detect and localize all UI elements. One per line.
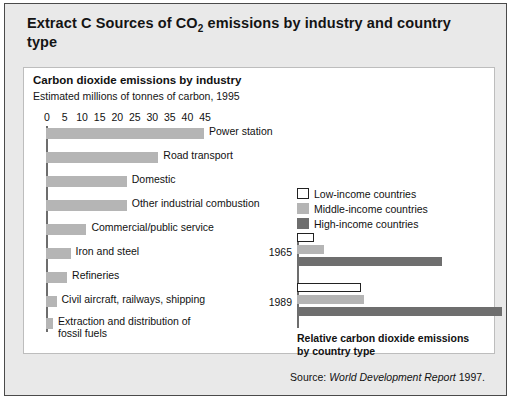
source-prefix: Source: (290, 371, 329, 383)
left-chart-bar (46, 224, 86, 235)
x-axis-tick-label: 0 (44, 111, 50, 123)
x-axis-tick-label: 30 (146, 111, 158, 123)
right-chart-plot-area: 19651989 (256, 233, 494, 328)
legend-item-label: Middle-income countries (314, 203, 428, 215)
right-chart-bar (297, 295, 364, 304)
figure-frame: Extract C Sources of CO2 emissions by in… (4, 3, 507, 396)
chart-panel: Carbon dioxide emissions by industry Est… (23, 67, 495, 354)
right-chart-bar (297, 283, 361, 292)
x-axis-tick-label: 5 (62, 111, 68, 123)
x-axis-tick-label: 40 (182, 111, 194, 123)
right-chart-group-label: 1989 (256, 296, 292, 308)
left-chart-bar-label: Domestic (132, 173, 176, 185)
legend-item: Middle-income countries (297, 201, 487, 216)
x-axis-tick-label: 10 (76, 111, 88, 123)
left-chart-bar-label: Power station (209, 125, 273, 137)
x-axis-tick-label: 45 (199, 111, 211, 123)
x-axis-tick-label: 25 (129, 111, 141, 123)
left-chart-bar (46, 248, 71, 259)
x-axis-tick-label: 20 (111, 111, 123, 123)
right-chart-bar (297, 307, 502, 316)
left-chart-bar-label: Civil aircraft, railways, shipping (62, 293, 206, 305)
source-line: Source: World Development Report 1997. (290, 371, 485, 383)
right-chart-group-label: 1965 (256, 246, 292, 258)
left-chart-bar (46, 272, 67, 283)
right-chart-bar (297, 245, 324, 254)
left-chart-plot-area: Power stationRoad transportDomesticOther… (33, 126, 283, 341)
left-chart-heading: Carbon dioxide emissions by industry (33, 74, 241, 86)
left-chart-bar (46, 176, 127, 187)
right-chart-caption-line2: by country type (297, 345, 469, 358)
legend-item: High-income countries (297, 216, 487, 231)
legend-item: Low-income countries (297, 186, 487, 201)
x-axis-tick-label: 15 (94, 111, 106, 123)
left-chart-bar-label: Extraction and distribution of fossil fu… (58, 315, 208, 339)
left-chart-bar (46, 200, 127, 211)
right-chart-bar (297, 257, 442, 266)
legend-item-label: High-income countries (314, 218, 418, 230)
legend-item-label: Low-income countries (314, 188, 416, 200)
right-chart: Low-income countriesMiddle-income countr… (256, 186, 494, 351)
figure-title: Extract C Sources of CO2 emissions by in… (27, 14, 467, 52)
legend-swatch-icon (297, 203, 309, 214)
right-chart-bar (297, 233, 314, 242)
left-chart-bar-label: Road transport (163, 149, 232, 161)
left-chart-bar-label: Iron and steel (76, 245, 140, 257)
left-chart-bar-label: Other industrial combustion (132, 197, 260, 209)
left-chart-subheading: Estimated millions of tonnes of carbon, … (33, 90, 240, 102)
right-chart-caption: Relative carbon dioxide emissions by cou… (297, 332, 469, 358)
right-chart-caption-line1: Relative carbon dioxide emissions (297, 332, 469, 345)
left-chart-bar (46, 152, 158, 163)
figure-title-prefix: Extract C Sources of CO (27, 15, 198, 31)
source-year: 1997. (456, 371, 485, 383)
left-chart-bar-label: Refineries (72, 269, 119, 281)
source-publication-title: World Development Report (329, 371, 456, 383)
left-chart-x-axis-ticks: 051015202530354045 (33, 111, 233, 125)
right-chart-legend: Low-income countriesMiddle-income countr… (297, 186, 487, 231)
left-chart-bar (46, 296, 57, 307)
left-chart-bar (46, 128, 204, 139)
left-chart-bar-label: Commercial/public service (91, 221, 214, 233)
legend-swatch-icon (297, 188, 309, 199)
left-chart-bar (46, 318, 53, 329)
legend-swatch-icon (297, 218, 309, 229)
x-axis-tick-label: 35 (164, 111, 176, 123)
